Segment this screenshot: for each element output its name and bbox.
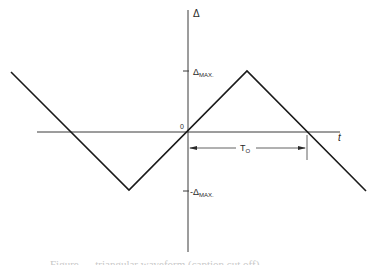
figure-caption-cropped: Figure — triangular waveform (caption cu… [0, 259, 374, 265]
neg-delta-max-subscript: MAX. [199, 192, 214, 198]
period-label-sub: O [246, 148, 251, 154]
arrowhead-right-icon [298, 146, 306, 150]
x-axis-label: t [338, 132, 342, 143]
neg-delta-max-symbol: -Δ [190, 187, 199, 197]
neg-delta-max-label: -ΔMAX. [190, 187, 214, 198]
period-label: TO [240, 143, 251, 154]
caption-text: Figure — triangular waveform (caption cu… [50, 259, 374, 265]
waveform-diagram: Δ t 0 ΔMAX. -ΔMAX. TO [0, 0, 374, 265]
origin-label: 0 [180, 123, 184, 130]
delta-max-subscript: MAX. [199, 72, 214, 78]
arrowhead-left-icon [189, 146, 197, 150]
delta-max-label: ΔMAX. [193, 67, 214, 78]
y-axis-label: Δ [193, 8, 200, 19]
